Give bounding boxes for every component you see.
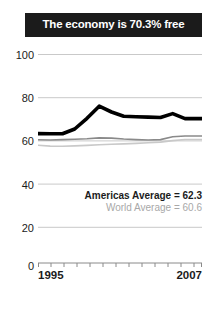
chart-container: The economy is 70.3% free 100 80 60 40 2… [0,0,217,309]
legend-item-world-average: World Average = 60.6 [60,202,202,214]
y-tick-label-0: 0 [0,261,34,272]
y-tick-label-40: 40 [0,180,34,191]
x-axis-ticks [39,263,202,267]
y-axis: 100 80 60 40 20 0 [0,50,34,266]
chart-legend: Americas Average = 62.3 World Average = … [60,190,202,214]
x-axis [38,262,202,269]
y-tick-label-20: 20 [0,223,34,234]
x-tick-label-start: 1995 [38,270,64,282]
y-tick-label-100: 100 [0,50,34,61]
series-line-country [38,106,202,134]
legend-item-americas-average: Americas Average = 62.3 [60,190,202,202]
plot-area [38,50,202,266]
x-axis-labels: 1995 2007 [38,270,202,286]
plot-svg [38,50,202,266]
chart-title-bar: The economy is 70.3% free [25,13,202,37]
x-tick-label-end: 2007 [176,270,202,282]
y-tick-label-80: 80 [0,93,34,104]
page-title: The economy is 70.3% free [42,19,184,31]
y-tick-label-60: 60 [0,136,34,147]
